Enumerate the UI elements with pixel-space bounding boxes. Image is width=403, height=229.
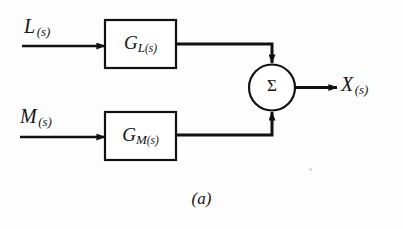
signal-name-X: X <box>341 73 353 95</box>
block-GL-subscript-paren: (s) <box>145 42 157 54</box>
block-GL-main: G <box>124 32 138 53</box>
figure-caption: (a) <box>0 190 403 207</box>
signal-label-input-bottom: M(s) <box>20 106 52 128</box>
sigma-icon: Σ <box>249 77 295 94</box>
block-GM-subscript-var: M <box>136 132 147 147</box>
signal-name-M: M <box>20 105 37 127</box>
signal-label-output: X(s) <box>341 74 368 96</box>
block-diagram-figure: L(s) M(s) X(s) GL(s) GM(s) Σ (a) <box>0 0 403 229</box>
block-GL-subscript-var: L <box>138 40 145 55</box>
block-label-GL: GL(s) <box>105 33 176 54</box>
signal-subscript-X: (s) <box>353 82 368 97</box>
block-GM-main: G <box>122 124 136 145</box>
scan-artifact <box>309 168 312 171</box>
block-label-GM: GM(s) <box>105 125 176 146</box>
signal-name-L: L <box>24 15 35 37</box>
block-GM-subscript-paren: (s) <box>147 134 159 146</box>
signal-label-input-top: L(s) <box>24 16 50 38</box>
connector-top-to-sum <box>176 44 272 63</box>
signal-subscript-M: (s) <box>37 114 52 129</box>
signal-subscript-L: (s) <box>35 24 50 39</box>
connector-bottom-to-sum <box>176 112 272 135</box>
